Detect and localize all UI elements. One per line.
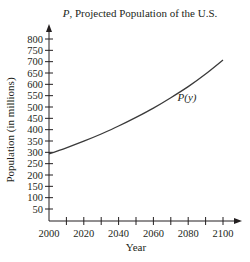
y-tick-label: 750: [27, 45, 43, 56]
y-tick-label: 150: [27, 181, 43, 192]
y-tick-label: 400: [27, 124, 43, 135]
y-tick-label: 100: [27, 192, 43, 203]
y-tick-label: 250: [27, 158, 43, 169]
y-tick-label: 300: [27, 147, 43, 158]
x-tick-label: 2020: [73, 228, 94, 239]
y-tick-label: 800: [27, 34, 43, 45]
x-axis-label: Year: [126, 241, 147, 253]
y-tick-label: 50: [33, 204, 44, 215]
y-tick-label: 450: [27, 113, 43, 124]
y-axis-arrow-icon: [46, 24, 52, 32]
x-axis-arrow-icon: [234, 218, 242, 224]
population-curve: [49, 60, 223, 154]
y-tick-label: 650: [27, 68, 43, 79]
y-tick-label: 550: [27, 90, 43, 101]
y-axis-label: Population (in millions): [4, 77, 17, 182]
y-tick-label: 350: [27, 136, 43, 147]
x-tick-label: 2100: [213, 228, 234, 239]
y-tick-label: 600: [27, 79, 43, 90]
curve-label: P(y): [177, 91, 197, 104]
x-tick-label: 2040: [108, 228, 129, 239]
y-tick-label: 500: [27, 102, 43, 113]
y-tick-label: 200: [27, 170, 43, 181]
x-tick-label: 2080: [178, 228, 199, 239]
y-tick-label: 700: [27, 56, 43, 67]
population-chart: P, Projected Population of the U.S. 5010…: [0, 0, 250, 262]
y-axis: 5010015020025030035040045050055060065070…: [27, 24, 53, 221]
x-axis: 200020202040206020802100: [39, 217, 243, 239]
x-tick-label: 2000: [39, 228, 60, 239]
x-tick-label: 2060: [143, 228, 164, 239]
chart-title: P, Projected Population of the U.S.: [62, 7, 218, 19]
